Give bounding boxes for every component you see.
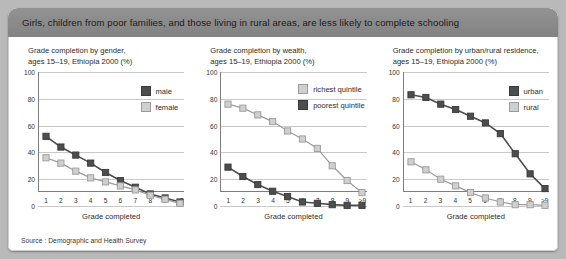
data-point <box>162 196 168 202</box>
data-point <box>497 131 503 137</box>
legend: richest quintilepoorest quintile <box>298 84 365 110</box>
legend-item-rural[interactable]: rural <box>509 102 543 112</box>
data-point <box>315 200 321 206</box>
data-point <box>270 188 276 194</box>
chart-row: Grade completion by gender, ages 15–19, … <box>9 37 557 220</box>
y-axis-tick: 0 <box>396 203 400 210</box>
data-point <box>285 128 291 134</box>
data-point <box>300 199 306 205</box>
legend-item-poorest-quintile[interactable]: poorest quintile <box>298 100 365 110</box>
y-axis-tick: 20 <box>392 176 399 183</box>
data-point <box>58 144 64 150</box>
chart-residence: Grade completion by urban/rural residenc… <box>374 46 557 220</box>
y-axis-tick: 20 <box>210 176 217 183</box>
chart-wealth: Grade completion by wealth, ages 15–19, … <box>191 46 374 220</box>
data-point <box>527 202 533 208</box>
data-point <box>88 160 94 166</box>
data-point <box>542 185 548 191</box>
plot-canvas: 020406080100123456789>9malefemale <box>38 72 184 206</box>
x-axis-label: Grade completed <box>403 212 549 221</box>
data-point <box>147 192 153 198</box>
figure-panel: Girls, children from poor families, and … <box>8 8 558 251</box>
headline-banner: Girls, children from poor families, and … <box>8 8 558 37</box>
legend-item-richest-quintile[interactable]: richest quintile <box>298 84 365 94</box>
legend-label: richest quintile <box>313 85 362 94</box>
data-point <box>422 94 428 100</box>
data-point <box>512 151 518 157</box>
data-point <box>467 190 473 196</box>
data-point <box>359 202 365 208</box>
data-point <box>344 202 350 208</box>
data-point <box>255 112 261 118</box>
data-point <box>270 118 276 124</box>
data-point <box>512 202 518 208</box>
x-axis-label: Grade completed <box>220 212 366 221</box>
chart-title: Grade completion by gender, ages 15–19, … <box>28 46 192 67</box>
legend-label: male <box>156 87 172 96</box>
x-axis-label: Grade completed <box>38 212 184 221</box>
data-point <box>102 179 108 185</box>
chart-gender: Grade completion by gender, ages 15–19, … <box>9 46 192 220</box>
plot-area: 020406080100123456789>9urbanruralGrade c… <box>381 72 557 220</box>
legend: malefemale <box>141 86 179 112</box>
data-point <box>43 133 49 139</box>
data-point <box>452 106 458 112</box>
y-axis-tick: 80 <box>392 95 399 102</box>
data-point <box>240 105 246 111</box>
headline-text: Girls, children from poor families, and … <box>22 17 459 28</box>
data-point <box>408 92 414 98</box>
legend-swatch-icon <box>509 102 519 112</box>
legend-swatch-icon <box>298 100 308 110</box>
legend-item-urban[interactable]: urban <box>509 86 543 96</box>
data-point <box>225 164 231 170</box>
y-axis-tick: 60 <box>210 122 217 129</box>
data-point <box>240 173 246 179</box>
y-axis-tick: 20 <box>28 176 35 183</box>
series-line-rural <box>411 162 545 206</box>
legend-label: urban <box>524 87 543 96</box>
figure-body: Grade completion by gender, ages 15–19, … <box>8 37 558 251</box>
legend-item-male[interactable]: male <box>141 86 179 96</box>
legend-swatch-icon <box>298 84 308 94</box>
data-point <box>542 202 548 208</box>
data-point <box>102 169 108 175</box>
data-point <box>408 159 414 165</box>
legend-item-female[interactable]: female <box>141 102 179 112</box>
y-axis-tick: 0 <box>214 203 218 210</box>
data-point <box>329 202 335 208</box>
y-axis-tick: 100 <box>24 69 35 76</box>
y-axis-tick: 100 <box>389 69 400 76</box>
legend-swatch-icon <box>141 102 151 112</box>
y-axis-tick: 40 <box>28 149 35 156</box>
series-line-poorest-quintile <box>228 167 362 205</box>
chart-title: Grade completion by urban/rural residenc… <box>393 46 557 67</box>
data-point <box>43 155 49 161</box>
data-point <box>73 152 79 158</box>
data-point <box>437 176 443 182</box>
source-note: Source : Demographic and Health Survey <box>21 237 146 244</box>
data-point <box>300 136 306 142</box>
data-point <box>452 183 458 189</box>
y-axis-tick: 40 <box>392 149 399 156</box>
y-axis-tick: 100 <box>206 69 217 76</box>
data-point <box>315 145 321 151</box>
data-point <box>285 194 291 200</box>
legend-swatch-icon <box>141 86 151 96</box>
y-axis-tick: 60 <box>392 122 399 129</box>
data-point <box>117 183 123 189</box>
plot-area: 020406080100123456789>9malefemaleGrade c… <box>16 72 192 220</box>
y-axis-tick: 40 <box>210 149 217 156</box>
data-point <box>359 190 365 196</box>
data-point <box>255 181 261 187</box>
data-point <box>437 101 443 107</box>
data-point <box>58 160 64 166</box>
data-point <box>344 177 350 183</box>
data-point <box>422 167 428 173</box>
data-point <box>225 101 231 107</box>
data-point <box>132 187 138 193</box>
data-point <box>482 120 488 126</box>
y-axis-tick: 0 <box>31 203 35 210</box>
plot-canvas: 020406080100123456789>9urbanrural <box>403 72 549 206</box>
legend: urbanrural <box>509 86 543 112</box>
plot-canvas: 020406080100123456789>9richest quintilep… <box>220 72 366 206</box>
